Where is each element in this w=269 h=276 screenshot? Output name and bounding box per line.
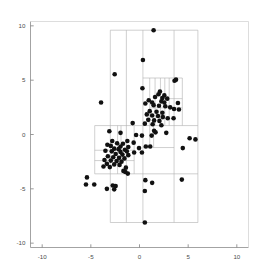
scatter-point xyxy=(172,78,177,83)
y-tick-label-5: 5 xyxy=(22,76,26,83)
scatter-point xyxy=(151,28,156,33)
scatter-point xyxy=(112,187,117,192)
y-tick-label--5: -5 xyxy=(20,185,26,192)
scatter-point xyxy=(150,113,155,118)
scatter-point xyxy=(108,165,113,170)
scatter-point xyxy=(85,175,90,180)
scatter-point xyxy=(156,114,161,119)
scatter-point xyxy=(109,149,114,154)
scatter-point xyxy=(130,121,135,126)
scatter-point xyxy=(143,121,148,126)
scatter-point xyxy=(108,158,113,163)
scatter-point xyxy=(137,146,142,151)
scatter-point xyxy=(165,96,170,101)
y-tick-label--10: -10 xyxy=(17,239,27,246)
scatter-point xyxy=(148,144,153,149)
scatter-point xyxy=(115,141,120,146)
scatter-point xyxy=(110,139,115,144)
scatter-point xyxy=(107,129,112,134)
x-tick-label--5: -5 xyxy=(88,253,94,260)
scatter-point xyxy=(125,139,130,144)
scatter-point xyxy=(103,148,108,153)
scatter-point xyxy=(126,153,131,158)
plot-canvas: -10-50510 -10-50510 xyxy=(0,0,269,276)
scatter-point xyxy=(161,115,166,120)
x-tick-label--10: -10 xyxy=(38,253,48,260)
scatter-point xyxy=(117,163,122,168)
scatter-point xyxy=(112,72,117,77)
scatter-point xyxy=(153,130,158,135)
scatter-point xyxy=(150,181,155,186)
scatter-point xyxy=(171,116,176,121)
scatter-point xyxy=(141,58,146,63)
scatter-point xyxy=(157,119,162,124)
scatter-point xyxy=(118,131,123,136)
scatter-point xyxy=(140,133,145,138)
scatter-point xyxy=(102,158,107,163)
y-tick-label-10: 10 xyxy=(19,22,26,29)
scatter-point xyxy=(84,182,89,187)
scatter-point xyxy=(134,133,139,138)
scatter-point xyxy=(176,101,181,106)
scatter-point xyxy=(131,140,136,145)
scatter-point xyxy=(157,103,162,108)
scatter-point xyxy=(181,146,186,151)
scatter-point xyxy=(105,187,110,192)
x-tick-label-5: 5 xyxy=(186,253,190,260)
scatter-point xyxy=(180,177,185,182)
scatter-point xyxy=(101,164,106,169)
x-tick-label-0: 0 xyxy=(138,253,142,260)
scatter-point xyxy=(177,107,182,112)
scatter-point xyxy=(193,137,198,142)
x-tick-label-10: 10 xyxy=(233,253,240,260)
scatter-point xyxy=(143,220,148,225)
scatter-point xyxy=(165,116,170,121)
plot-background xyxy=(0,0,269,276)
scatter-point xyxy=(92,182,97,187)
scatter-plot-figure: -10-50510 -10-50510 xyxy=(0,0,269,276)
scatter-point xyxy=(151,103,156,108)
scatter-point xyxy=(144,112,149,117)
scatter-point xyxy=(112,162,117,167)
scatter-point xyxy=(132,150,137,155)
scatter-point xyxy=(106,154,111,159)
scatter-point xyxy=(172,107,177,112)
scatter-point xyxy=(163,104,168,109)
scatter-point xyxy=(159,123,164,128)
scatter-point xyxy=(143,101,148,106)
scatter-point xyxy=(164,131,169,136)
scatter-point xyxy=(140,150,145,155)
scatter-point xyxy=(140,86,145,91)
scatter-point xyxy=(149,133,154,138)
scatter-point xyxy=(154,109,159,114)
y-tick-label-0: 0 xyxy=(22,131,26,138)
scatter-point xyxy=(150,122,155,127)
scatter-point xyxy=(144,144,149,149)
scatter-point xyxy=(160,110,165,115)
scatter-point xyxy=(153,95,158,100)
scatter-point xyxy=(126,171,131,176)
scatter-point xyxy=(143,189,148,194)
scatter-point xyxy=(99,100,104,105)
scatter-point xyxy=(187,136,192,141)
scatter-point xyxy=(143,178,148,183)
scatter-point xyxy=(146,118,151,123)
